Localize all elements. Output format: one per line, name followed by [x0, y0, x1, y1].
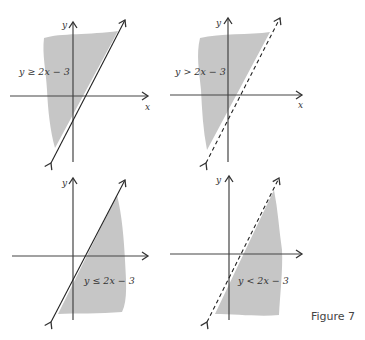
panel-bottom-left: y y ≤ 2x − 3 — [12, 178, 148, 322]
panel-top-left: y x y ≥ 2x − 3 — [10, 20, 150, 163]
inequality-graphs-figure: y x y ≥ 2x − 3 y x y > 2x − 3 y y ≤ 2x −… — [0, 0, 365, 340]
shaded-region — [43, 31, 118, 148]
inequality-label: y > 2x − 3 — [174, 66, 226, 77]
shaded-region — [58, 195, 126, 314]
panel-bottom-right: y y < 2x − 3 — [170, 175, 302, 322]
shaded-region — [215, 190, 282, 316]
inequality-label: y ≤ 2x − 3 — [83, 275, 135, 286]
inequality-label: y ≥ 2x − 3 — [18, 66, 70, 77]
inequality-label: y < 2x − 3 — [237, 275, 289, 286]
x-axis-label: x — [298, 100, 303, 110]
shaded-region — [198, 32, 270, 150]
y-axis-label: y — [215, 175, 222, 185]
y-axis-label: y — [215, 18, 222, 28]
panel-top-right: y x y > 2x − 3 — [170, 18, 303, 163]
y-axis-label: y — [61, 20, 68, 30]
figure-caption: Figure 7 — [311, 310, 355, 323]
y-axis-label: y — [61, 178, 68, 188]
x-axis-label: x — [145, 102, 150, 112]
